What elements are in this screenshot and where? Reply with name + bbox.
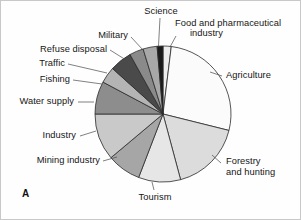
leader-line-refuse-disposal	[110, 50, 126, 60]
figure-panel: Science Food and pharmaceutical industry…	[0, 0, 301, 220]
slice-label-fishing: Fishing	[8, 74, 70, 85]
slice-label-tourism: Tourism	[120, 192, 190, 203]
panel-label: A	[22, 188, 29, 199]
slice-label-industry: Industry	[12, 130, 76, 141]
leader-line-tourism	[152, 182, 154, 190]
slice-label-forestry-line2: and hunting	[226, 167, 300, 178]
slice-label-science: Science	[113, 6, 209, 17]
slice-label-food-pharma-line1: Food and pharmaceutical	[175, 18, 299, 29]
leader-line-traffic	[68, 64, 107, 73]
leader-line-industry	[80, 131, 96, 136]
slice-label-agriculture: Agriculture	[226, 70, 300, 81]
leader-line-food-pharma	[170, 36, 176, 47]
pie-slices	[95, 46, 231, 182]
slice-label-food-pharma-line2: industry	[190, 28, 300, 39]
leader-line-fishing	[73, 80, 102, 84]
slice-label-traffic: Traffic	[8, 58, 65, 69]
slice-label-forestry-line1: Forestry	[226, 156, 298, 167]
slice-label-mining-industry: Mining industry	[10, 155, 100, 166]
slice-label-military: Military	[68, 30, 128, 41]
leader-line-science	[159, 18, 161, 46]
leader-line-military	[131, 37, 143, 50]
slice-label-refuse-disposal: Refuse disposal	[8, 44, 107, 55]
slice-label-water-supply: Water supply	[2, 96, 74, 107]
